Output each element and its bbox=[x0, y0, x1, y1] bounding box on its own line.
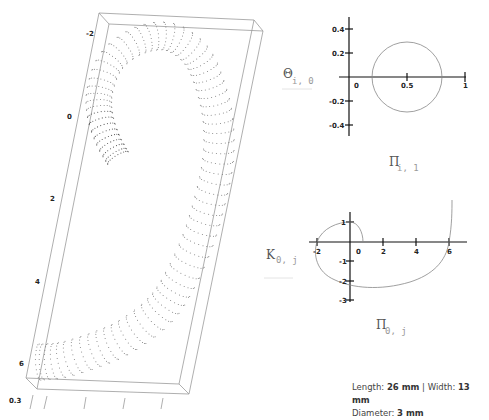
circle-ytick-0: 0.4 bbox=[332, 26, 345, 34]
tick-3d-0: -2 bbox=[86, 30, 94, 38]
caption-line-1: Length: 26 mm | Width: 13 mm bbox=[352, 381, 489, 407]
tick-3d-4: 6 bbox=[19, 360, 24, 368]
circle-xtick-2: 1 bbox=[463, 82, 468, 90]
circle-ytick-1: 0.2 bbox=[332, 50, 345, 58]
diameter-label: Diameter: bbox=[352, 408, 397, 418]
width-label: Width: bbox=[428, 382, 458, 392]
circle-xtick-0: 0 bbox=[354, 82, 359, 90]
spiral-ylabel-sub: 0, j bbox=[276, 255, 298, 265]
length-label: Length: bbox=[352, 382, 387, 392]
plot-spiral: -2 0 2 4 6 1 -1 -2 -3 K 0, j Π 0, j bbox=[264, 200, 467, 336]
spiral-ytick-0: 1 bbox=[341, 219, 346, 227]
diameter-value: 3 mm bbox=[397, 408, 424, 418]
circle-ylabel-sub: i, 0 bbox=[292, 76, 314, 86]
length-value: 26 mm bbox=[387, 382, 420, 392]
circle-ytick-3: -0.4 bbox=[329, 122, 344, 130]
spiral-xtick-2: 2 bbox=[381, 248, 386, 256]
dimensions-caption: Length: 26 mm | Width: 13 mm Diameter: 3… bbox=[352, 381, 489, 420]
spiral-curve bbox=[315, 200, 452, 288]
circle-xtick-1: 0.5 bbox=[401, 82, 414, 90]
tick-3d-3: 4 bbox=[35, 278, 40, 286]
spiral-ytick-3: -3 bbox=[339, 297, 347, 305]
caption-separator: | bbox=[419, 382, 427, 392]
circle-ytick-2: -0.2 bbox=[329, 98, 344, 106]
tick-3d-1: 0 bbox=[67, 113, 72, 121]
plot-3d-ticks: -2 0 2 4 6 0.3 bbox=[9, 30, 94, 405]
spiral-tube-points bbox=[35, 22, 235, 381]
spiral-xtick-3: 4 bbox=[414, 248, 419, 256]
plot-3d-box bbox=[26, 13, 263, 409]
tick-3d-5: 0.3 bbox=[9, 397, 22, 405]
spiral-xlabel-sub: 0, j bbox=[385, 326, 407, 336]
spiral-ytick-1: -1 bbox=[339, 258, 347, 266]
spiral-ylabel: K bbox=[266, 248, 276, 262]
caption-line-2: Diameter: 3 mm bbox=[352, 407, 489, 420]
spiral-ytick-2: -2 bbox=[339, 278, 347, 286]
spiral-xtick-0: -2 bbox=[313, 248, 321, 256]
spiral-xtick-4: 6 bbox=[447, 248, 452, 256]
spiral-xtick-1: 0 bbox=[356, 248, 361, 256]
circle-xlabel-sub: i, 1 bbox=[397, 163, 419, 173]
tick-3d-2: 2 bbox=[50, 195, 55, 203]
plot-circle: 0 0.5 1 0.4 0.2 -0.2 -0.4 Θ i, 0 Π i, 1 bbox=[282, 17, 468, 173]
